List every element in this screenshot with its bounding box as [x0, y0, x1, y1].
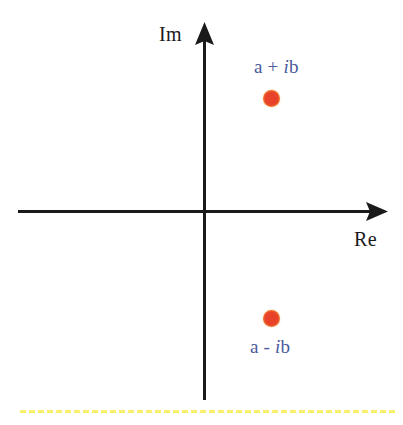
point-label-prefix: a + [254, 56, 283, 77]
point-label-prefix: a - [250, 336, 275, 357]
point-label-a-plus-ib: a + ib [254, 57, 299, 76]
data-point-a-plus-ib [263, 90, 280, 107]
complex-plane-figure: Im Re a + ib a - ib [0, 0, 403, 425]
point-label-suffix: b [289, 56, 299, 77]
axes-group [0, 0, 403, 425]
dashed-separator-rule [20, 410, 395, 413]
real-axis-label: Re [354, 229, 377, 249]
point-label-suffix: b [281, 336, 291, 357]
imaginary-axis-label: Im [159, 24, 182, 44]
point-label-a-minus-ib: a - ib [250, 337, 290, 356]
data-point-a-minus-ib [263, 310, 280, 327]
